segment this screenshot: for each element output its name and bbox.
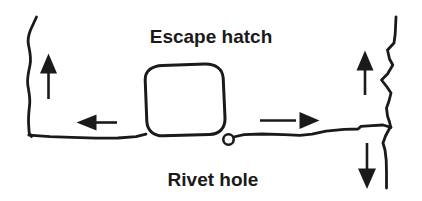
fuselage-crack-diagram: Escape hatch Rivet hole xyxy=(0,0,422,201)
right-crack-upper-line xyxy=(382,17,397,128)
arrow-left-horizontal xyxy=(77,115,118,131)
arrow-left-up-head xyxy=(40,54,57,74)
arrow-right-down xyxy=(358,143,376,189)
seam-left-segment xyxy=(29,134,146,138)
arrow-right-up-head xyxy=(357,51,374,71)
arrow-right-up xyxy=(357,51,374,96)
arrow-right-horizontal xyxy=(260,112,320,129)
seam-right-segment xyxy=(234,125,392,137)
arrow-right-down-head xyxy=(358,169,376,190)
arrow-left-horizontal-head xyxy=(77,115,97,131)
escape-hatch-label: Escape hatch xyxy=(150,26,273,47)
diagram-canvas: Escape hatch Rivet hole xyxy=(0,0,422,201)
rivet-hole-label: Rivet hole xyxy=(168,169,259,190)
arrow-right-horizontal-head xyxy=(300,112,320,129)
escape-hatch-outline xyxy=(145,64,225,136)
left-crack-line xyxy=(28,17,37,137)
right-crack-lower-line xyxy=(383,129,390,189)
arrow-left-up xyxy=(40,54,57,100)
rivet-hole-circle xyxy=(223,134,233,144)
